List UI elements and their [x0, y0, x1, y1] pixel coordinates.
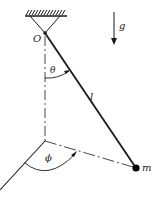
phi-label: ϕ [45, 152, 52, 163]
spherical-pendulum-diagram: O g θ l ϕ m [0, 0, 159, 198]
ceiling-support [25, 10, 67, 33]
pendulum-mass [132, 164, 139, 171]
reference-axis [0, 141, 45, 190]
gravity-arrowhead-icon [111, 38, 117, 45]
pivot-label: O [33, 33, 41, 44]
gravity-label: g [119, 20, 125, 31]
phi-arrowhead-icon [71, 151, 77, 157]
length-label: l [90, 91, 93, 102]
mass-label: m [142, 162, 151, 173]
theta-label: θ [50, 65, 56, 75]
